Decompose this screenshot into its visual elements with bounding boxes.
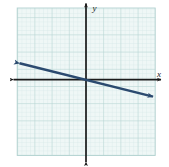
- x-axis-label: x: [156, 69, 161, 79]
- coordinate-plane-figure: y x: [0, 0, 169, 167]
- y-axis-label: y: [92, 3, 97, 13]
- graph-svg: y x: [0, 0, 169, 167]
